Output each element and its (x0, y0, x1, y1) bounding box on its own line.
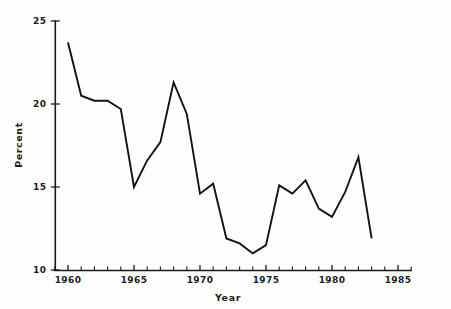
y-tick-label-10: 10 (33, 265, 46, 275)
y-axis-title: Percent (13, 122, 24, 168)
x-axis-title: Year (214, 292, 241, 303)
x-tick-label-1975: 1975 (253, 275, 280, 285)
x-tick-label-1960: 1960 (55, 275, 82, 285)
data-line-percent (68, 43, 372, 254)
chart-plot-area: 10152025 196019651970197519801985 Percen… (0, 0, 451, 309)
x-axis: 196019651970197519801985 (55, 265, 412, 285)
x-tick-label-1965: 1965 (121, 275, 148, 285)
x-tick-label-1985: 1985 (385, 275, 412, 285)
y-tick-label-15: 15 (33, 182, 46, 192)
x-tick-label-1980: 1980 (319, 275, 346, 285)
data-series-group (68, 43, 372, 254)
line-chart-figure: 10152025 196019651970197519801985 Percen… (0, 0, 451, 309)
y-axis: 10152025 (33, 16, 60, 275)
y-tick-label-25: 25 (33, 16, 46, 26)
y-tick-label-20: 20 (33, 99, 46, 109)
x-tick-label-1970: 1970 (187, 275, 214, 285)
